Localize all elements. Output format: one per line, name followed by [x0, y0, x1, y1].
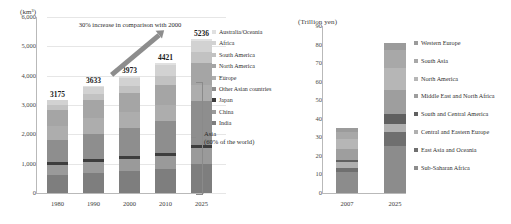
- legend-item[interactable]: South Asia: [414, 58, 495, 64]
- bar-segment-europe: [155, 105, 176, 121]
- y-axis-tick-label: 60: [282, 78, 322, 85]
- bar-segment-other-asian-countries: [47, 140, 68, 162]
- legend-item[interactable]: India: [212, 120, 271, 126]
- legend-item[interactable]: Other Asian countries: [212, 86, 271, 92]
- legend-item-label: East Asia and Oceania: [421, 147, 477, 153]
- bar-segment-east-asia-and-oceania: [384, 132, 406, 146]
- legend-swatch-icon: [212, 76, 216, 80]
- y-axis-tick-label: 0: [0, 189, 36, 196]
- bar-segment-india: [83, 173, 104, 193]
- bar-total-label: 3175: [41, 90, 74, 99]
- legend-item-label: Japan: [219, 97, 233, 103]
- legend-swatch-icon: [212, 30, 216, 34]
- y-axis-line-right: [322, 26, 323, 193]
- legend-item[interactable]: Japan: [212, 97, 271, 103]
- bar-1980[interactable]: [47, 100, 68, 193]
- x-axis-line-left: [36, 193, 204, 194]
- bar-segment-africa: [119, 78, 140, 87]
- asia-annotation: Asia (60% of the world): [204, 130, 254, 146]
- bar-segment-south-asia: [384, 50, 406, 68]
- bar-segment-china: [47, 165, 68, 175]
- legend-item-label: Other Asian countries: [219, 86, 271, 92]
- bar-2010[interactable]: [155, 63, 176, 193]
- bar-segment-china: [119, 159, 140, 171]
- bar-2007[interactable]: [336, 128, 358, 193]
- legend-swatch-icon: [414, 148, 418, 152]
- legend-swatch-icon: [414, 166, 418, 170]
- bar-segment-india: [119, 171, 140, 193]
- legend-swatch-icon: [212, 87, 216, 91]
- bar-segment-africa: [155, 65, 176, 76]
- legend-item-label: South America: [219, 52, 255, 58]
- legend-swatch-icon: [212, 53, 216, 57]
- y-axis-tick-label: 40: [282, 115, 322, 122]
- legend-item-label: Middle East and North Africa: [421, 93, 495, 99]
- legend-item-label: South Asia: [421, 58, 448, 64]
- legend-item[interactable]: Australia/Oceania: [212, 29, 271, 35]
- bar-segment-western-europe: [384, 43, 406, 50]
- legend-item[interactable]: Africa: [212, 40, 271, 46]
- legend-item-label: Australia/Oceania: [219, 29, 262, 35]
- legend-item[interactable]: East Asia and Oceania: [414, 147, 495, 153]
- y-axis-tick-label: 30: [282, 133, 322, 140]
- bar-segment-other-asian-countries: [83, 134, 104, 159]
- bar-segment-south-and-central-america: [384, 114, 406, 124]
- bar-segment-europe: [119, 112, 140, 128]
- legend-item[interactable]: Central and Eastern Europe: [414, 129, 495, 135]
- legend-item[interactable]: Europe: [212, 75, 271, 81]
- y-axis-line-left: [36, 17, 37, 193]
- x-axis-tick-label: 2007: [326, 200, 368, 207]
- y-axis-tick-label: 2,000: [0, 130, 36, 137]
- bar-segment-central-and-eastern-europe: [384, 124, 406, 131]
- bar-segment-europe: [47, 126, 68, 140]
- legend-item-label: Western Europe: [421, 40, 461, 46]
- legend-item[interactable]: Sub-Saharan Africa: [414, 165, 495, 171]
- bar-2000[interactable]: [119, 76, 140, 193]
- legend-swatch-icon: [212, 64, 216, 68]
- legend-item-label: Sub-Saharan Africa: [421, 165, 470, 171]
- legend-swatch-icon: [414, 77, 418, 81]
- legend-item-label: North America: [219, 63, 255, 69]
- y-axis-tick-label: 0: [282, 189, 322, 196]
- legend-item[interactable]: South and Central America: [414, 111, 495, 117]
- legend-item[interactable]: China: [212, 109, 271, 115]
- bar-segment-india: [155, 169, 176, 192]
- asia-brace-tick: [191, 137, 196, 138]
- bar-1990[interactable]: [83, 86, 104, 193]
- legend-swatch-icon: [414, 59, 418, 63]
- legend-item-label: Central and Eastern Europe: [421, 129, 489, 135]
- y-axis-tick-label: 10: [282, 170, 322, 177]
- x-axis-tick-label: 2000: [109, 200, 150, 207]
- bar-segment-europe: [83, 118, 104, 134]
- bar-segment-north-america: [384, 68, 406, 90]
- legend-swatch-icon: [414, 112, 418, 116]
- chart-water-demand: (km³) 01,0002,0003,0004,0005,0006,000 31…: [0, 0, 300, 224]
- bar-segment-north-america: [336, 139, 358, 149]
- chart-water-market: (Trillion yen) 0102030405060708090 20072…: [296, 0, 511, 224]
- legend-swatch-icon: [414, 41, 418, 45]
- legend-item-label: South and Central America: [421, 111, 488, 117]
- bar-segment-middle-east-and-north-africa: [384, 90, 406, 114]
- x-axis-line-right: [322, 193, 406, 194]
- legend-item[interactable]: South America: [212, 52, 271, 58]
- bar-segment-north-america: [47, 110, 68, 126]
- y-axis-tick-label: 5,000: [0, 42, 36, 49]
- y-axis-tick-label: 50: [282, 96, 322, 103]
- x-axis-tick-label: 2025: [374, 200, 416, 207]
- bar-segment-north-america: [83, 100, 104, 118]
- legend-item[interactable]: Middle East and North Africa: [414, 93, 495, 99]
- bar-segment-other-asian-countries: [119, 128, 140, 156]
- x-axis-tick-label: 1990: [73, 200, 114, 207]
- legend-item[interactable]: Western Europe: [414, 40, 495, 46]
- y-axis-tick-label: 90: [282, 22, 322, 29]
- legend-item[interactable]: North America: [414, 76, 495, 82]
- asia-brace: [196, 82, 203, 195]
- bar-segment-north-america: [119, 93, 140, 112]
- legend-swatch-icon: [212, 110, 216, 114]
- bar-total-label: 3633: [77, 76, 110, 85]
- legend-item[interactable]: North America: [212, 63, 271, 69]
- legend-right: Western EuropeSouth AsiaNorth AmericaMid…: [414, 40, 495, 182]
- gridline: [47, 17, 226, 18]
- asia-annotation-line-2: (60% of the world): [204, 138, 254, 146]
- bar-2025[interactable]: [384, 43, 406, 193]
